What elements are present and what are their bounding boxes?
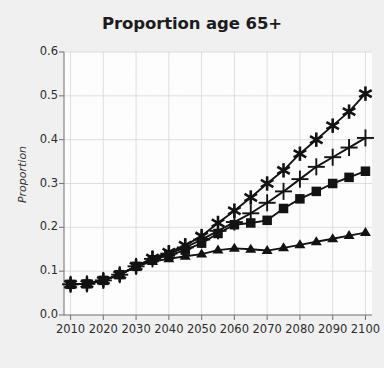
marker-square [312,187,322,197]
chart-figure: Proportion age 65+ Proportion 0.00.10.20… [0,0,384,368]
plot-area [0,0,384,368]
marker-square [344,173,354,183]
marker-square [361,166,371,176]
marker-square [262,216,272,226]
marker-square [279,204,289,214]
marker-square [246,218,256,228]
marker-square [230,220,240,230]
marker-square [197,238,207,248]
marker-square [213,229,223,239]
marker-square [328,179,338,189]
marker-square [295,194,305,204]
